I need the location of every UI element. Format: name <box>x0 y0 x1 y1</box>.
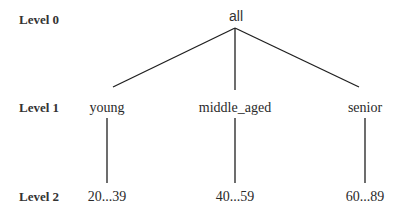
node-40-59: 40...59 <box>216 189 255 204</box>
level-0-label: Level 0 <box>19 12 59 27</box>
node-senior: senior <box>348 100 383 115</box>
edge-all-young <box>113 28 235 87</box>
level-1-label: Level 1 <box>19 100 59 115</box>
hierarchy-diagram: Level 0 Level 1 Level 2 all young middle… <box>0 0 402 223</box>
node-all: all <box>229 8 243 24</box>
node-young: young <box>90 100 125 115</box>
node-20-39: 20...39 <box>88 189 127 204</box>
node-60-89: 60...89 <box>346 189 385 204</box>
node-middle-aged: middle_aged <box>199 100 271 115</box>
edge-all-senior <box>235 28 359 87</box>
level-2-label: Level 2 <box>19 189 59 204</box>
